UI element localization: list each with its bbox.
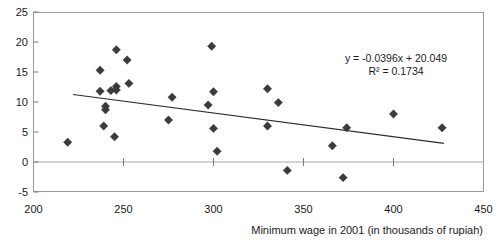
y-tick-label: 5 — [22, 126, 28, 138]
y-tick-label: 10 — [16, 96, 28, 108]
x-tick-label: 350 — [294, 203, 312, 215]
y-tick-label: 0 — [22, 156, 28, 168]
x-tick-label: 400 — [384, 203, 402, 215]
regression-equation-label: y = -0.0396x + 20.049 — [345, 52, 447, 64]
chart-canvas: 25 20 15 10 5 0 -5 200 250 300 350 400 4… — [0, 0, 498, 244]
scatter-chart-figure: 25 20 15 10 5 0 -5 200 250 300 350 400 4… — [0, 0, 498, 244]
y-tick-label: 15 — [16, 66, 28, 78]
x-tick-label: 300 — [204, 203, 222, 215]
r-squared-label: R² = 0.1734 — [368, 65, 423, 77]
x-tick-label: 450 — [474, 203, 492, 215]
y-tick-label: 20 — [16, 36, 28, 48]
x-tick-label: 200 — [24, 203, 42, 215]
y-tick-label: -5 — [18, 186, 28, 198]
y-tick-label: 25 — [16, 6, 28, 18]
x-axis-title: Minimum wage in 2001 (in thousands of ru… — [251, 224, 483, 236]
x-tick-label: 250 — [114, 203, 132, 215]
chart-background — [0, 0, 498, 244]
